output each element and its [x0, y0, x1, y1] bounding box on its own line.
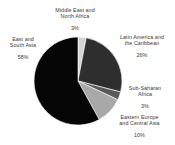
pie-label-name: Eastern Europe and Central Asia	[105, 114, 174, 126]
pie-label-value: 26%	[110, 52, 174, 58]
pie-label-eastern-europe-central-asia: Eastern Europe and Central Asia 10%	[105, 108, 174, 145]
pie-label-east-south-asia: East and South Asia 58%	[1, 30, 45, 67]
pie-label-name: Latin America and the Caribbean	[110, 34, 174, 46]
pie-label-latin-america-caribbean: Latin America and the Caribbean 26%	[110, 28, 174, 65]
pie-chart: Middle East and North Africa 3% Latin Am…	[0, 0, 175, 145]
pie-label-middle-east-north-africa: Middle East and North Africa 3%	[38, 1, 112, 38]
pie-label-name: Sub-Saharan Africa	[116, 85, 174, 97]
pie-label-name: Middle East and North Africa	[38, 7, 112, 19]
pie-label-name: East and South Asia	[1, 36, 45, 48]
pie-label-value: 58%	[1, 54, 45, 60]
pie-label-value: 3%	[38, 25, 112, 31]
pie-label-value: 10%	[105, 132, 174, 138]
